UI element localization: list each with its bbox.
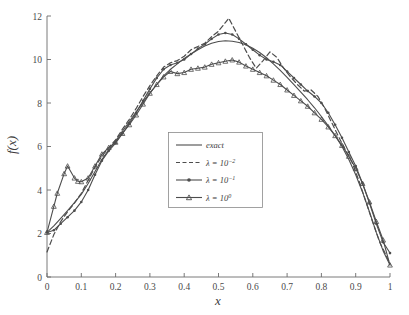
data-point (183, 58, 186, 61)
x-tick-label: 0.5 (213, 282, 225, 292)
data-point (94, 173, 97, 176)
y-axis-tick-labels: 024681012 (33, 12, 43, 283)
data-point (80, 201, 83, 204)
data-point (313, 95, 316, 98)
x-tick-label: 0.3 (144, 282, 156, 292)
x-tick-label: 0.1 (75, 282, 87, 292)
x-axis-tick-labels: 00.10.20.30.40.50.60.70.80.91 (45, 282, 393, 292)
y-tick-label: 12 (33, 12, 43, 22)
y-tick-label: 2 (37, 229, 42, 239)
data-point (217, 33, 220, 36)
x-tick-label: 0.2 (110, 282, 122, 292)
y-axis-label: f(x) (4, 136, 19, 154)
data-point (190, 53, 193, 56)
figure-container: 00.10.20.30.40.50.60.70.80.91 024681012 … (0, 0, 409, 315)
data-point (87, 189, 90, 192)
data-point (279, 64, 282, 67)
data-point (320, 102, 323, 105)
data-point (272, 60, 275, 63)
y-tick-label: 0 (37, 273, 42, 283)
data-point (59, 222, 62, 225)
data-point (306, 90, 309, 93)
data-point (348, 151, 351, 154)
y-tick-label: 10 (33, 55, 43, 65)
data-point (293, 77, 296, 80)
data-point (210, 38, 213, 41)
data-point (327, 111, 330, 114)
legend-label: exact (206, 140, 225, 150)
data-point (334, 123, 337, 126)
data-point (341, 137, 344, 140)
data-point (300, 83, 303, 86)
y-axis-ticks (47, 16, 51, 277)
x-tick-label: 0.6 (247, 282, 259, 292)
data-point (286, 70, 289, 73)
data-point (169, 64, 172, 67)
data-point (245, 43, 248, 46)
data-point (149, 88, 152, 91)
x-tick-label: 0.8 (315, 282, 327, 292)
y-tick-label: 8 (37, 99, 42, 109)
data-point (203, 43, 206, 46)
data-point (252, 48, 255, 51)
data-point (53, 229, 56, 232)
data-point (238, 38, 241, 41)
x-tick-label: 0.7 (281, 282, 293, 292)
legend-label: λ = 100 (205, 193, 231, 203)
data-point (389, 252, 392, 255)
x-axis-label: x (214, 293, 221, 308)
data-point (258, 54, 261, 57)
data-point (197, 47, 200, 50)
data-point (66, 216, 69, 219)
y-tick-label: 4 (37, 186, 42, 196)
x-tick-label: 0.9 (350, 282, 362, 292)
data-point (101, 159, 104, 162)
legend: exactλ = 10−2λ = 10−1λ = 100 (169, 133, 263, 208)
x-tick-label: 1 (388, 282, 393, 292)
x-tick-label: 0 (45, 282, 50, 292)
x-axis-ticks (47, 273, 390, 277)
line-chart: 00.10.20.30.40.50.60.70.80.91 024681012 … (0, 0, 409, 315)
legend-marker (187, 178, 191, 182)
data-point (224, 32, 227, 35)
data-point (265, 58, 268, 61)
data-point (155, 77, 158, 80)
y-tick-label: 6 (37, 142, 42, 152)
data-point (176, 61, 179, 64)
data-point (73, 209, 76, 212)
data-point (162, 68, 165, 71)
x-tick-label: 0.4 (178, 282, 190, 292)
data-point (231, 33, 234, 36)
